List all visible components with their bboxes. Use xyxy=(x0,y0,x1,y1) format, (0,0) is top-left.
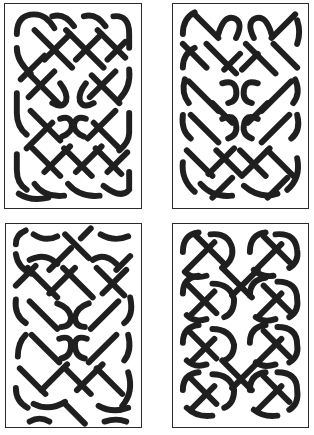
knot-panel-top-right: Panel B xyxy=(172,3,309,209)
knot-panel-top-left: Panel A xyxy=(4,3,142,209)
celtic-knot-icon xyxy=(5,4,141,208)
celtic-knot-icon xyxy=(173,4,308,208)
celtic-knot-icon xyxy=(6,224,141,427)
knot-panel-bottom-left: Panel C xyxy=(5,223,142,428)
knot-panel-bottom-right: Panel D xyxy=(172,223,309,428)
celtic-knot-icon xyxy=(173,224,308,427)
